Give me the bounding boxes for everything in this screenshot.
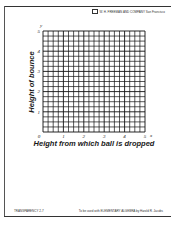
graph-grid-chart: 12345123450 y x Height of bounce Height …: [0, 0, 171, 226]
svg-text:3: 3: [38, 69, 41, 74]
footer-transparency-number: TRANSPARENCY 2-7: [14, 209, 44, 213]
footer-attribution: To be used with ELEMENTARY ALGEBRA by Ha…: [79, 209, 163, 213]
tick-labels: 12345123450: [38, 29, 147, 139]
svg-text:2: 2: [38, 89, 41, 94]
grid-lines: [43, 31, 145, 132]
y-axis-title: Height of bounce: [27, 51, 36, 112]
x-axis-letter: x: [149, 133, 153, 138]
svg-text:5: 5: [38, 29, 41, 34]
x-axis-title: Height from which ball is dropped: [34, 139, 155, 148]
svg-text:4: 4: [38, 49, 41, 54]
svg-text:1: 1: [38, 110, 41, 115]
y-axis-letter: y: [39, 23, 43, 28]
